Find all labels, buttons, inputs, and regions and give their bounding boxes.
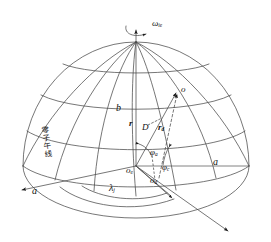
geocentric-latitude-label: φc [162, 163, 169, 172]
polar-axis [126, 26, 146, 166]
figure-canvas: ωie b a a o r D rd φa φc oe od λj 零子午线 [0, 0, 271, 242]
origin-oe-label: oe [126, 166, 133, 175]
vector-rd-label: rd [158, 123, 164, 132]
semi-minor-axis-label: b [116, 103, 121, 113]
distance-D-label: D [142, 123, 149, 132]
diagram-svg [0, 0, 271, 242]
geodetic-latitude-label: φa [150, 148, 158, 157]
longitude-label: λj [109, 183, 115, 193]
point-o-label: o [181, 85, 186, 94]
vector-r-label: r [129, 119, 133, 128]
semi-major-axis-left-label: a [32, 186, 37, 196]
earth-rate-label: ωie [152, 19, 162, 28]
semi-major-axis-right-label: a [213, 157, 218, 167]
origin-od-label: od [150, 176, 157, 185]
